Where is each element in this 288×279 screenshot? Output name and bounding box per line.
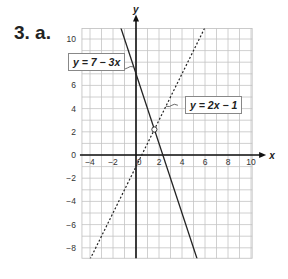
y-tick-label: 2 (71, 127, 76, 137)
y-tick-label: 6 (71, 80, 76, 90)
y-tick-label: 0 (71, 150, 76, 160)
chart-plot: xy−4−20246810−8−6−4−20246810 (0, 0, 288, 279)
x-axis-arrow-icon (259, 152, 266, 158)
y-tick-label: 4 (71, 104, 76, 114)
y-tick-label: −6 (66, 220, 76, 230)
x-tick-label: −2 (108, 157, 118, 167)
intersection-marker (152, 127, 157, 132)
y-tick-label: −8 (66, 243, 76, 253)
y-tick-label: 10 (66, 34, 76, 44)
equation-label-dotted: y = 2x − 1 (185, 96, 242, 114)
x-tick-label: 4 (180, 157, 185, 167)
x-tick-label: 0 (137, 157, 142, 167)
y-axis-label: y (132, 4, 139, 15)
x-tick-label: 10 (246, 157, 256, 167)
x-axis-label: x (268, 150, 275, 161)
y-axis-arrow-icon (133, 15, 139, 22)
x-tick-label: 6 (203, 157, 208, 167)
leader-line-dotted (166, 104, 178, 106)
x-tick-label: −4 (85, 157, 95, 167)
y-tick-label: −4 (66, 196, 76, 206)
x-tick-label: 2 (157, 157, 162, 167)
y-tick-label: −2 (66, 173, 76, 183)
equation-label-solid: y = 7 − 3x (68, 53, 125, 71)
x-tick-label: 8 (226, 157, 231, 167)
